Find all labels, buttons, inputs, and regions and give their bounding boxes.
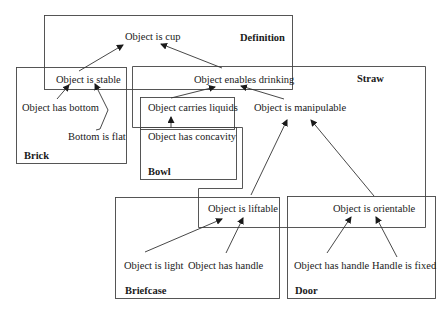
node-object-is-light: Object is light: [124, 260, 184, 272]
edge-handle-to-orientable: [327, 217, 351, 253]
region-title-bowl: Bowl: [148, 166, 171, 178]
node-object-has-bottom: Object has bottom: [22, 102, 99, 114]
node-object-is-liftable: Object is liftable: [208, 203, 278, 215]
node-object-enables-drinking: Object enables drinking: [194, 74, 294, 86]
node-object-is-cup: Object is cup: [125, 31, 180, 43]
node-object-has-concavity: Object has concavity: [148, 131, 236, 143]
edge-light-to-liftable: [145, 219, 222, 252]
region-title-brick: Brick: [24, 150, 49, 162]
edge-handle-to-liftable: [226, 218, 243, 253]
edge-liquids-to-drinking: [171, 87, 215, 98]
region-title-definition: Definition: [240, 32, 285, 44]
edge-drinking-to-cup: [161, 44, 222, 68]
node-object-has-handle-briefcase: Object has handle: [188, 260, 263, 272]
node-bottom-is-flat: Bottom is flat: [68, 131, 126, 143]
edge-orientable-to-manipulable: [311, 120, 374, 196]
node-object-is-manipulable: Object is manipulable: [254, 102, 346, 114]
region-title-briefcase: Briefcase: [125, 285, 166, 297]
edge-fixed-to-orientable: [376, 217, 397, 257]
node-object-has-handle-door: Object has handle: [294, 260, 369, 272]
node-object-carries-liquids: Object carries liquids: [148, 102, 238, 114]
edge-manipulable-to-drinking: [241, 86, 284, 99]
edge-liftable-to-manipulable: [251, 120, 287, 195]
region-title-straw: Straw: [357, 73, 384, 85]
node-object-is-orientable: Object is orientable: [333, 203, 415, 215]
region-title-door: Door: [295, 285, 318, 297]
node-object-is-stable: Object is stable: [56, 74, 121, 86]
edge-bottom-to-stable: [57, 85, 69, 99]
node-handle-is-fixed: Handle is fixed: [372, 260, 436, 272]
